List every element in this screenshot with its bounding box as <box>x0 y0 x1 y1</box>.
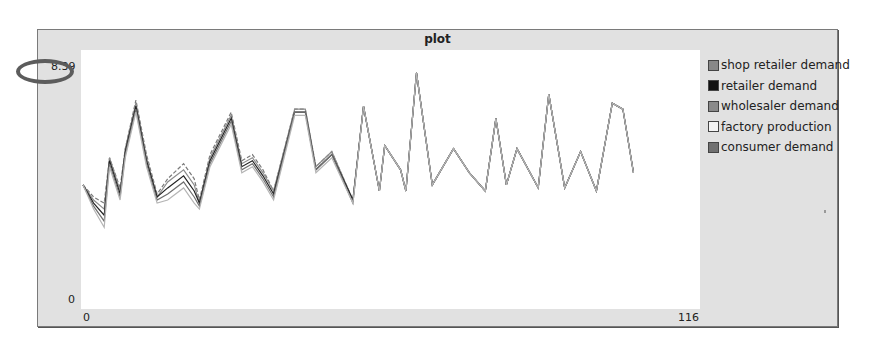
plot-lines <box>0 0 869 347</box>
series-line <box>83 73 634 221</box>
series-line <box>83 73 634 215</box>
series-line <box>83 73 634 209</box>
series-line <box>83 73 634 227</box>
series-line <box>83 73 634 203</box>
annotation-ellipse <box>16 59 74 84</box>
